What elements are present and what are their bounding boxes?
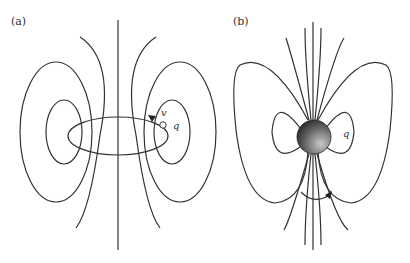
rotation-arrow [301,192,330,199]
charged-sphere [297,120,331,154]
charge-label-b: q [343,128,349,139]
panel-a-label: (a) [11,15,26,28]
velocity-label: v [161,107,167,118]
panel-b-label: (b) [233,15,249,28]
panel-a-field-lines [20,20,216,250]
charge-marker [160,122,166,128]
charge-label-a: q [173,120,179,131]
